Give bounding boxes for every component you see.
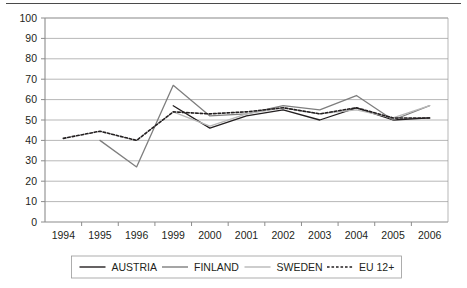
y-axis-ticks: 0102030405060708090100 xyxy=(19,12,45,228)
y-tick-label-100: 100 xyxy=(19,12,37,24)
y-tick-label-80: 80 xyxy=(25,52,37,64)
x-tick-label-2001: 2001 xyxy=(235,229,259,241)
top-divider-rule xyxy=(6,3,461,4)
x-tick-label-2005: 2005 xyxy=(381,229,405,241)
x-tick-label-2006: 2006 xyxy=(418,229,442,241)
x-tick-label-1999: 1999 xyxy=(162,229,186,241)
x-tick-label-1995: 1995 xyxy=(88,229,112,241)
chart-figure: 0102030405060708090100 19941995199619992… xyxy=(0,0,467,288)
y-tick-label-50: 50 xyxy=(25,114,37,126)
y-tick-label-20: 20 xyxy=(25,175,37,187)
x-axis-ticks: 1994199519961999200020012002200320042005… xyxy=(52,222,442,241)
line-chart: 0102030405060708090100 19941995199619992… xyxy=(0,0,467,288)
data-series-group xyxy=(63,85,429,167)
legend-label-sweden: SWEDEN xyxy=(277,261,323,273)
legend-label-finland: FINLAND xyxy=(194,261,239,273)
legend-label-austria: AUSTRIA xyxy=(112,261,158,273)
x-tick-label-1996: 1996 xyxy=(125,229,149,241)
y-tick-label-40: 40 xyxy=(25,134,37,146)
gridlines-group xyxy=(45,18,448,202)
y-tick-label-70: 70 xyxy=(25,73,37,85)
y-tick-label-60: 60 xyxy=(25,93,37,105)
legend-label-eu-12-: EU 12+ xyxy=(359,261,394,273)
y-tick-label-10: 10 xyxy=(25,195,37,207)
x-tick-label-1994: 1994 xyxy=(52,229,76,241)
series-line-eu-12- xyxy=(63,108,429,141)
legend: AUSTRIAFINLANDSWEDENEU 12+ xyxy=(72,256,402,278)
x-tick-label-2004: 2004 xyxy=(345,229,369,241)
x-tick-label-2003: 2003 xyxy=(308,229,332,241)
y-tick-label-90: 90 xyxy=(25,32,37,44)
x-tick-label-2002: 2002 xyxy=(271,229,295,241)
series-line-finland xyxy=(100,85,430,167)
x-tick-label-2000: 2000 xyxy=(198,229,222,241)
y-tick-label-30: 30 xyxy=(25,154,37,166)
y-tick-label-0: 0 xyxy=(31,216,37,228)
